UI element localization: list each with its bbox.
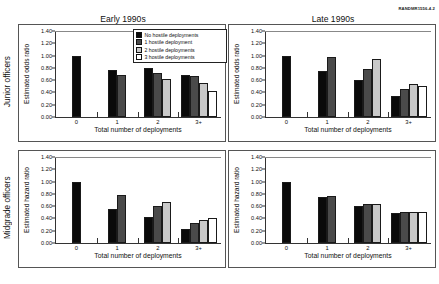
bar xyxy=(117,195,126,243)
bar xyxy=(72,182,81,243)
legend-label-0: No hostile deployments xyxy=(145,32,199,38)
y-tick-label: 1.40 xyxy=(41,28,52,34)
column-title-late: Late 1990s xyxy=(228,14,438,24)
x-tick-label: 0 xyxy=(285,245,288,251)
y-tick-label: 0.40 xyxy=(41,215,52,221)
bar xyxy=(400,89,409,117)
x-tick-label: 1 xyxy=(326,245,329,251)
bar-group xyxy=(354,31,381,117)
x-tick-label: 3+ xyxy=(195,245,202,251)
y-tick-label: 0.80 xyxy=(251,65,262,71)
legend-swatch-1-hostile xyxy=(136,39,142,45)
bar-group xyxy=(391,31,427,117)
bar xyxy=(372,59,381,117)
x-tick-label: 2 xyxy=(156,119,159,125)
bar xyxy=(354,80,363,117)
y-tick-label: 1.00 xyxy=(41,53,52,59)
x-tick-label: 2 xyxy=(366,119,369,125)
y-tick-label: 0.20 xyxy=(41,228,52,234)
bar xyxy=(108,70,117,117)
x-axis-label: Total number of deployments xyxy=(265,126,431,133)
bar-group xyxy=(72,31,81,117)
x-axis-line xyxy=(265,243,431,244)
bar-group xyxy=(318,157,336,243)
x-axis-line xyxy=(55,243,221,244)
y-axis-ticks: 0.000.200.400.600.801.001.201.40 xyxy=(31,31,55,117)
bar xyxy=(199,220,208,243)
x-axis-label: Total number of deployments xyxy=(55,252,221,259)
chart-panel-bottom-left: Estimated hazard ratio0.000.200.400.600.… xyxy=(18,150,226,268)
bar-group xyxy=(282,157,291,243)
y-tick-label: 0.80 xyxy=(41,65,52,71)
bar xyxy=(354,206,363,243)
bar-group xyxy=(108,157,126,243)
group-separator-tick xyxy=(348,112,349,117)
x-axis-label: Total number of deployments xyxy=(55,126,221,133)
bar xyxy=(190,76,199,117)
bar xyxy=(199,83,208,117)
x-tick-label: 3+ xyxy=(405,119,412,125)
legend-label-2: 2 hostile deployments xyxy=(145,47,195,53)
bar xyxy=(327,196,336,243)
y-tick-label: 0.00 xyxy=(251,240,262,246)
group-separator-tick xyxy=(307,112,308,117)
plot-area xyxy=(56,157,221,243)
bar xyxy=(318,197,327,243)
bar-group xyxy=(181,157,217,243)
legend: No hostile deployments 1 hostile deploym… xyxy=(133,29,227,63)
y-tick-label: 1.40 xyxy=(41,154,52,160)
group-separator-tick xyxy=(388,238,389,243)
x-tick-label: 1 xyxy=(116,245,119,251)
bar-group xyxy=(72,157,81,243)
bar xyxy=(72,56,81,117)
row-label-junior: Junior officers xyxy=(0,24,14,140)
chart-panel-top-right: Estimated odds ratio0.000.200.400.600.80… xyxy=(228,24,436,142)
y-tick-label: 1.40 xyxy=(251,154,262,160)
y-tick-label: 1.20 xyxy=(41,40,52,46)
bar xyxy=(400,212,409,243)
y-tick-label: 0.00 xyxy=(41,240,52,246)
x-tick-label: 0 xyxy=(285,119,288,125)
bar xyxy=(418,86,427,117)
bar-group xyxy=(108,31,126,117)
bar-group xyxy=(354,157,381,243)
bar xyxy=(181,229,190,243)
legend-item-0: No hostile deployments xyxy=(136,32,224,38)
bar xyxy=(282,56,291,117)
bar xyxy=(409,84,418,117)
x-tick-label: 2 xyxy=(156,245,159,251)
y-tick-label: 1.00 xyxy=(251,53,262,59)
group-separator-tick xyxy=(178,238,179,243)
y-tick-label: 0.20 xyxy=(251,102,262,108)
bar xyxy=(153,206,162,243)
bar-group xyxy=(318,31,336,117)
y-axis-ticks: 0.000.200.400.600.801.001.201.40 xyxy=(241,31,265,117)
group-separator-tick xyxy=(178,112,179,117)
x-tick-label: 1 xyxy=(116,119,119,125)
group-separator-tick xyxy=(138,112,139,117)
y-tick-label: 1.20 xyxy=(41,166,52,172)
legend-swatch-no-hostile xyxy=(136,32,142,38)
bar xyxy=(144,217,153,243)
x-tick-label: 0 xyxy=(75,245,78,251)
bar xyxy=(282,182,291,243)
legend-item-1: 1 hostile deployment xyxy=(136,39,224,45)
legend-label-3: 3 hostile deployments xyxy=(145,54,195,60)
x-tick-label: 3+ xyxy=(195,119,202,125)
x-tick-label: 0 xyxy=(75,119,78,125)
y-tick-label: 0.60 xyxy=(41,77,52,83)
y-tick-label: 0.20 xyxy=(41,102,52,108)
bar xyxy=(162,202,171,243)
bar xyxy=(108,209,117,243)
legend-item-2: 2 hostile deployments xyxy=(136,47,224,53)
bar xyxy=(318,71,327,117)
y-tick-label: 0.60 xyxy=(251,77,262,83)
legend-label-1: 1 hostile deployment xyxy=(145,39,193,45)
plot-area xyxy=(266,157,431,243)
row-label-midgrade: Midgrade officers xyxy=(0,150,14,266)
bar xyxy=(391,213,400,243)
y-axis-ticks: 0.000.200.400.600.801.001.201.40 xyxy=(241,157,265,243)
x-axis-label: Total number of deployments xyxy=(265,252,431,259)
y-tick-label: 0.20 xyxy=(251,228,262,234)
bar xyxy=(418,212,427,243)
